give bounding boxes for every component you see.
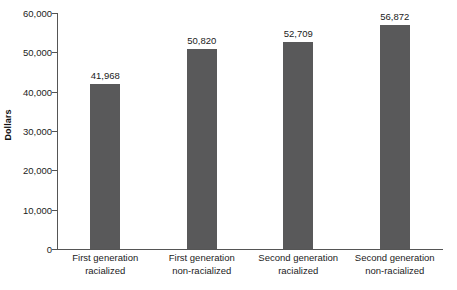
x-axis-category-label-line: Second generation <box>347 252 444 265</box>
x-axis-category-label: Second generationracialized <box>250 252 347 277</box>
y-axis-tick-label: 0 <box>6 244 52 255</box>
x-axis-category-label-line: Second generation <box>250 252 347 265</box>
y-axis-tick-labels: 010,00020,00030,00040,00050,00060,000 <box>5 0 52 290</box>
bar[interactable] <box>380 25 410 249</box>
bar-group[interactable]: 56,872 <box>380 13 410 249</box>
bar-group[interactable]: 50,820 <box>187 13 217 249</box>
y-axis-tick-label: 30,000 <box>6 126 52 137</box>
x-axis-category-label-line: First generation <box>57 252 154 265</box>
x-axis-category-label: First generationnon-racialized <box>154 252 251 277</box>
bar-group[interactable]: 41,968 <box>90 13 120 249</box>
y-axis-tick-label: 20,000 <box>6 165 52 176</box>
x-axis-category-label: First generationracialized <box>57 252 154 277</box>
y-axis-tick-label: 10,000 <box>6 204 52 215</box>
bar-value-label: 56,872 <box>380 11 409 22</box>
bar-value-label: 52,709 <box>284 28 313 39</box>
x-axis-category-label-line: racialized <box>250 265 347 278</box>
x-axis-category-label-line: non-racialized <box>347 265 444 278</box>
x-axis-line <box>57 249 443 250</box>
bar[interactable] <box>187 49 217 249</box>
bar-value-label: 41,968 <box>91 70 120 81</box>
plot-area: 41,96850,82052,70956,872 <box>57 13 443 249</box>
x-axis-category-labels: First generationracializedFirst generati… <box>57 252 443 288</box>
bar-value-label: 50,820 <box>187 35 216 46</box>
bar-chart: Dollars 010,00020,00030,00040,00050,0006… <box>0 0 457 290</box>
bar-group[interactable]: 52,709 <box>283 13 313 249</box>
y-axis-tick-label: 40,000 <box>6 86 52 97</box>
x-axis-category-label-line: non-racialized <box>154 265 251 278</box>
x-axis-category-label: Second generationnon-racialized <box>347 252 444 277</box>
bar[interactable] <box>90 84 120 249</box>
x-axis-category-label-line: racialized <box>57 265 154 278</box>
bar[interactable] <box>283 42 313 249</box>
y-axis-tick-label: 50,000 <box>6 47 52 58</box>
y-axis-tick-label: 60,000 <box>6 8 52 19</box>
x-axis-category-label-line: First generation <box>154 252 251 265</box>
